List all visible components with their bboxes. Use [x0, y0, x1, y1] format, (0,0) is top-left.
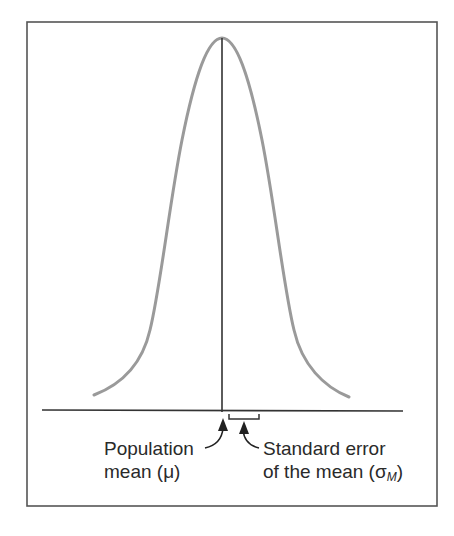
population-mean-label-line1: Population — [104, 437, 194, 460]
population-mean-arrow-icon — [218, 418, 228, 431]
standard-error-label: Standard error of the mean (σM) — [263, 437, 403, 489]
standard-error-label-text: of the mean (σ — [263, 461, 387, 482]
population-mean-label: Population mean (μ) — [104, 437, 194, 483]
standard-error-bracket — [229, 414, 259, 419]
population-mean-label-line2: mean (μ) — [104, 460, 194, 483]
standard-error-subscript: M — [387, 470, 397, 484]
figure-frame — [27, 22, 437, 506]
standard-error-arrow-icon — [239, 421, 249, 434]
standard-error-label-line1: Standard error — [263, 437, 403, 460]
standard-error-label-close: ) — [397, 461, 403, 482]
diagram: Population mean (μ) Standard error of th… — [0, 0, 454, 536]
standard-error-label-line2: of the mean (σM) — [263, 460, 403, 489]
